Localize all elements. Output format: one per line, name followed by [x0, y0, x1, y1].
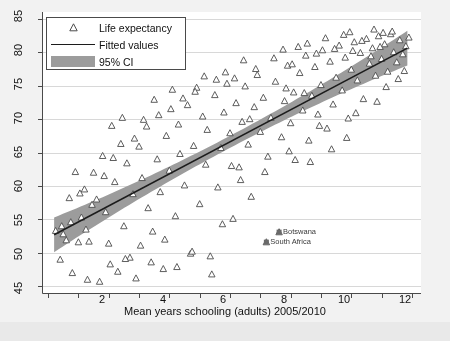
annotation-botswana: Botswana: [283, 227, 316, 236]
legend-item-life-expectancy: Life expectancy: [47, 19, 187, 36]
xtick-label: 6: [220, 293, 226, 305]
xtick-label: 10: [338, 293, 350, 305]
ytick-label: 80: [12, 44, 34, 56]
xtick-label: 4: [160, 293, 166, 305]
ytick-label: 75: [12, 78, 34, 90]
line-swatch-icon: [47, 36, 99, 53]
ytick-label: 65: [12, 146, 34, 158]
ytick-label: 45: [12, 282, 34, 294]
legend-label: Fitted values: [99, 39, 159, 51]
legend-item-fitted-values: Fitted values: [47, 36, 187, 53]
ytick-label: 85: [12, 10, 34, 22]
band-swatch-icon: [47, 53, 99, 70]
triangle-marker-icon: [47, 19, 99, 36]
legend-label: 95% CI: [99, 56, 133, 68]
annotation-south-africa: South Africa: [270, 237, 310, 246]
ytick-label: 60: [12, 180, 34, 192]
ytick-label: 55: [12, 214, 34, 226]
x-axis-title: Mean years schooling (adults) 2005/2010: [0, 305, 450, 317]
legend-label: Life expectancy: [99, 22, 172, 34]
legend-item-ci-band: 95% CI: [47, 53, 187, 70]
ytick-label: 50: [12, 248, 34, 260]
chart-figure: 85 80 75 70 65 60 55 50 45 2 4 6 8 10 12…: [0, 0, 450, 341]
xtick-label: 2: [99, 293, 105, 305]
chart-legend: Life expectancy Fitted values 95% CI: [46, 17, 186, 70]
xtick-label: 12: [399, 293, 411, 305]
xtick-label: 8: [281, 293, 287, 305]
ytick-label: 70: [12, 112, 34, 124]
